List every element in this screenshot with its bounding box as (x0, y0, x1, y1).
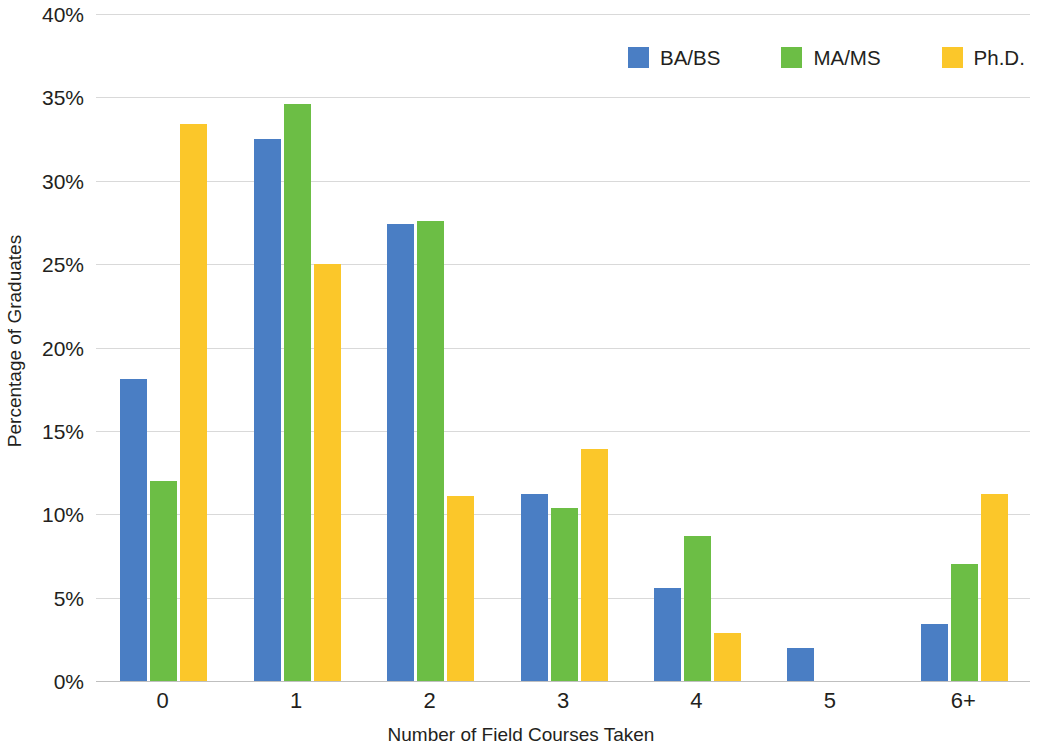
bar[interactable] (654, 588, 681, 681)
bar[interactable] (921, 624, 948, 681)
bar[interactable] (521, 494, 548, 681)
x-tick-label: 0 (157, 690, 169, 712)
bar[interactable] (714, 633, 741, 681)
bar-group (387, 14, 474, 681)
bar[interactable] (417, 221, 444, 681)
bar[interactable] (150, 481, 177, 681)
bar-series-container (96, 14, 1030, 681)
y-tick-label: 10% (42, 504, 84, 525)
y-tick-label: 20% (42, 337, 84, 358)
bar-chart: BA/BSMA/MSPh.D. Percentage of Graduates … (0, 0, 1042, 753)
bar[interactable] (981, 494, 1008, 681)
gridline (96, 681, 1030, 682)
bar[interactable] (314, 264, 341, 681)
y-tick-label: 35% (42, 87, 84, 108)
y-tick-label: 15% (42, 420, 84, 441)
bar[interactable] (447, 496, 474, 681)
y-tick-label: 0% (54, 671, 84, 692)
y-tick-label: 40% (42, 4, 84, 25)
x-axis-title: Number of Field Courses Taken (0, 724, 1042, 746)
x-tick-label: 4 (690, 690, 702, 712)
x-tick-label: 2 (423, 690, 435, 712)
plot-area (96, 14, 1030, 681)
x-axis-tick-labels: 0123456+ (96, 690, 1030, 724)
bar-group (521, 14, 608, 681)
bar[interactable] (284, 104, 311, 681)
bar-group (120, 14, 207, 681)
bar-group (254, 14, 341, 681)
bar-group (654, 14, 741, 681)
bar[interactable] (787, 648, 814, 681)
bar[interactable] (387, 224, 414, 681)
bar-group (921, 14, 1008, 681)
bar[interactable] (254, 139, 281, 681)
y-tick-label: 25% (42, 254, 84, 275)
x-tick-label: 3 (557, 690, 569, 712)
bar[interactable] (684, 536, 711, 681)
y-tick-label: 5% (54, 587, 84, 608)
x-tick-label: 5 (824, 690, 836, 712)
bar[interactable] (951, 564, 978, 681)
bar[interactable] (581, 449, 608, 681)
bar[interactable] (180, 124, 207, 681)
y-axis-tick-labels: 0%5%10%15%20%25%30%35%40% (0, 14, 84, 681)
bar[interactable] (120, 379, 147, 681)
x-tick-label: 1 (290, 690, 302, 712)
x-tick-label: 6+ (951, 690, 976, 712)
y-tick-label: 30% (42, 170, 84, 191)
bar[interactable] (551, 508, 578, 681)
bar-group (787, 14, 874, 681)
